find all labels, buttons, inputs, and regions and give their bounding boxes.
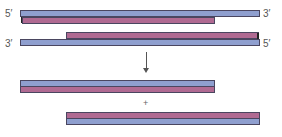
top-pink-strand-2	[66, 32, 259, 39]
top-blue-strand-2	[20, 39, 260, 46]
top-blue-strand-1	[20, 10, 260, 17]
five-prime-label-bottom-right: 5′	[263, 39, 270, 49]
arrow-down-icon	[146, 52, 147, 69]
three-prime-label-bottom-left: 3′	[5, 39, 12, 49]
arrow-head-icon	[143, 68, 149, 73]
five-prime-label-top-left: 5′	[5, 9, 12, 19]
product-1-pink-strand	[20, 86, 215, 93]
top-pink-strand-1	[22, 17, 215, 24]
product-2-blue-strand	[66, 118, 260, 125]
plus-sign: +	[143, 99, 148, 108]
three-prime-label-top-right: 3′	[263, 9, 270, 19]
